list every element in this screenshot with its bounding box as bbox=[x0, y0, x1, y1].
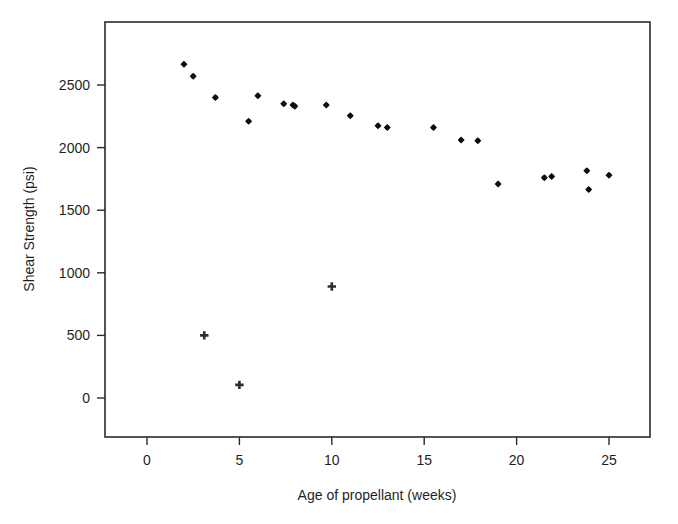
data-point-plus bbox=[235, 381, 243, 389]
data-point-plus bbox=[200, 331, 208, 339]
data-point-core bbox=[431, 125, 436, 130]
data-point-core bbox=[191, 74, 196, 79]
y-tick-label: 2000 bbox=[59, 140, 90, 156]
y-axis-ticks: 05001000150020002500 bbox=[59, 77, 105, 406]
data-point-core bbox=[255, 93, 260, 98]
data-point-core bbox=[475, 138, 480, 143]
data-point-core bbox=[607, 173, 612, 178]
data-point-core bbox=[281, 101, 286, 106]
x-axis-title: Age of propellant (weeks) bbox=[298, 487, 457, 503]
data-point-core bbox=[292, 104, 297, 109]
x-tick-label: 0 bbox=[143, 452, 151, 468]
data-point-core bbox=[246, 119, 251, 124]
y-axis-title: Shear Strength (psi) bbox=[21, 166, 37, 291]
data-point-core bbox=[496, 182, 501, 187]
data-point-core bbox=[459, 138, 464, 143]
plot-frame bbox=[105, 22, 650, 437]
x-tick-label: 15 bbox=[416, 452, 432, 468]
data-point-core bbox=[348, 113, 353, 118]
data-point-core bbox=[385, 125, 390, 130]
x-tick-label: 25 bbox=[601, 452, 617, 468]
data-point-plus bbox=[328, 282, 336, 290]
y-tick-label: 1500 bbox=[59, 202, 90, 218]
x-axis-ticks: 0510152025 bbox=[143, 437, 617, 468]
scatter-plot-figure: 05001000150020002500 0510152025 Age of p… bbox=[0, 0, 678, 524]
data-point-core bbox=[213, 95, 218, 100]
data-point-core bbox=[584, 168, 589, 173]
series-outliers bbox=[200, 282, 336, 389]
x-tick-label: 20 bbox=[509, 452, 525, 468]
x-tick-label: 5 bbox=[236, 452, 244, 468]
series-observed bbox=[180, 61, 612, 193]
y-tick-label: 500 bbox=[67, 327, 91, 343]
plot-canvas: 05001000150020002500 0510152025 Age of p… bbox=[0, 0, 678, 524]
data-points-layer bbox=[180, 61, 612, 389]
x-tick-label: 10 bbox=[324, 452, 340, 468]
data-point-core bbox=[549, 174, 554, 179]
y-tick-label: 2500 bbox=[59, 77, 90, 93]
data-point-core bbox=[324, 103, 329, 108]
data-point-core bbox=[376, 123, 381, 128]
y-tick-label: 0 bbox=[82, 390, 90, 406]
data-point-core bbox=[182, 62, 187, 67]
y-tick-label: 1000 bbox=[59, 265, 90, 281]
data-point-core bbox=[586, 187, 591, 192]
data-point-core bbox=[542, 175, 547, 180]
